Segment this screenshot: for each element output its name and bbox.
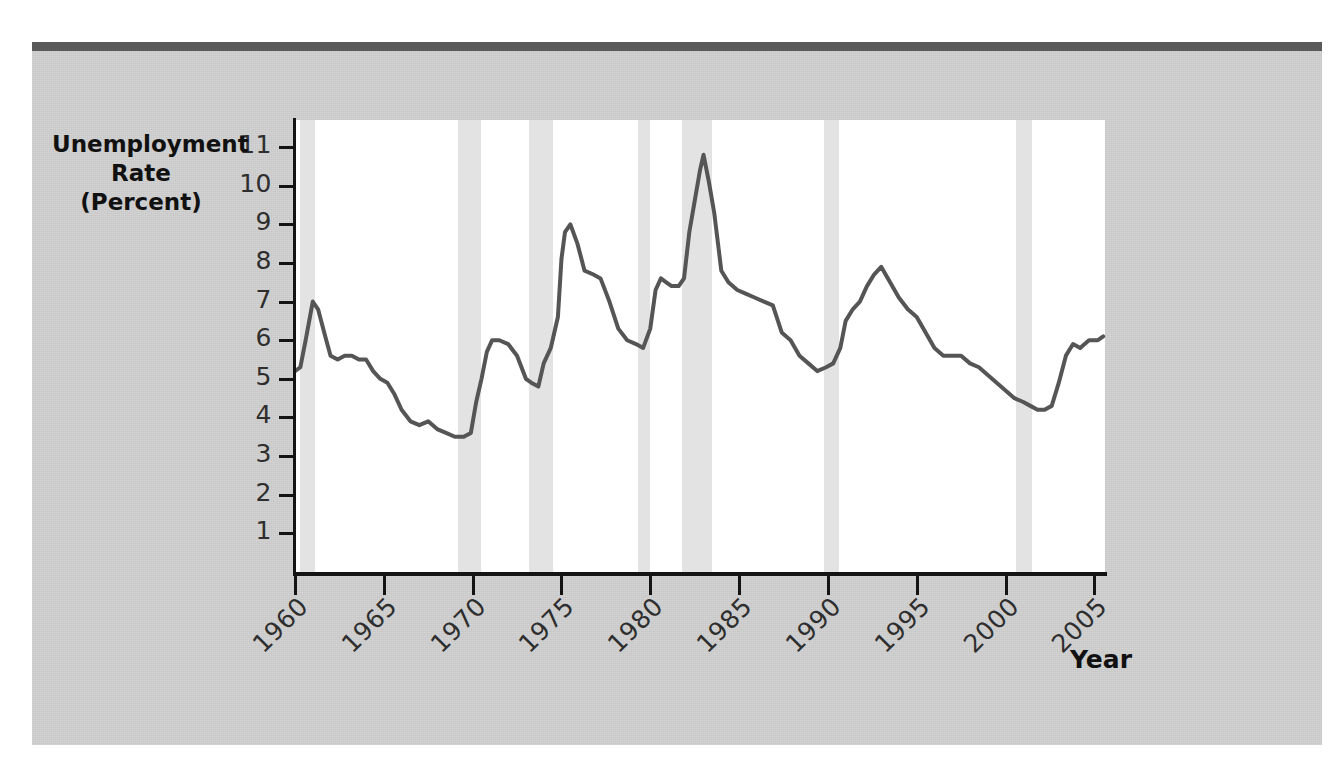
x-axis-line <box>293 572 1107 576</box>
y-axis-tick <box>279 146 293 149</box>
y-axis-title-line-2: Rate <box>52 159 230 188</box>
y-axis-tick-label: 8 <box>256 246 272 275</box>
y-axis-tick <box>279 378 293 381</box>
y-axis-tick <box>279 262 293 265</box>
x-axis-title: Year <box>1070 645 1132 674</box>
y-axis-tick-label: 6 <box>256 323 272 352</box>
y-axis-title-line-3: (Percent) <box>52 188 230 217</box>
y-axis-tick <box>279 416 293 419</box>
y-axis-title: Unemployment Rate (Percent) <box>52 130 230 217</box>
y-axis-title-line-1: Unemployment <box>52 130 230 159</box>
y-axis-tick-label: 2 <box>256 478 272 507</box>
unemployment-rate-line <box>295 120 1105 572</box>
y-axis-tick-label: 1 <box>256 516 272 545</box>
y-axis-tick <box>279 301 293 304</box>
plot-area <box>295 120 1105 572</box>
y-axis-tick <box>279 455 293 458</box>
y-axis-tick <box>279 532 293 535</box>
y-axis-tick <box>279 494 293 497</box>
series-polyline <box>295 155 1103 437</box>
figure-top-rule <box>32 42 1322 51</box>
y-axis-tick-label: 4 <box>256 400 272 429</box>
y-axis-tick-label: 3 <box>256 439 272 468</box>
y-axis-tick <box>279 185 293 188</box>
y-axis-tick-label: 10 <box>239 169 272 198</box>
y-axis-line <box>293 118 296 575</box>
y-axis-tick <box>279 339 293 342</box>
y-axis-tick-label: 5 <box>256 362 272 391</box>
figure-canvas: 1110987654321 19601965197019751980198519… <box>0 0 1335 778</box>
y-axis-tick <box>279 223 293 226</box>
y-axis-tick-label: 9 <box>256 207 272 236</box>
y-axis-tick-label: 7 <box>256 285 272 314</box>
